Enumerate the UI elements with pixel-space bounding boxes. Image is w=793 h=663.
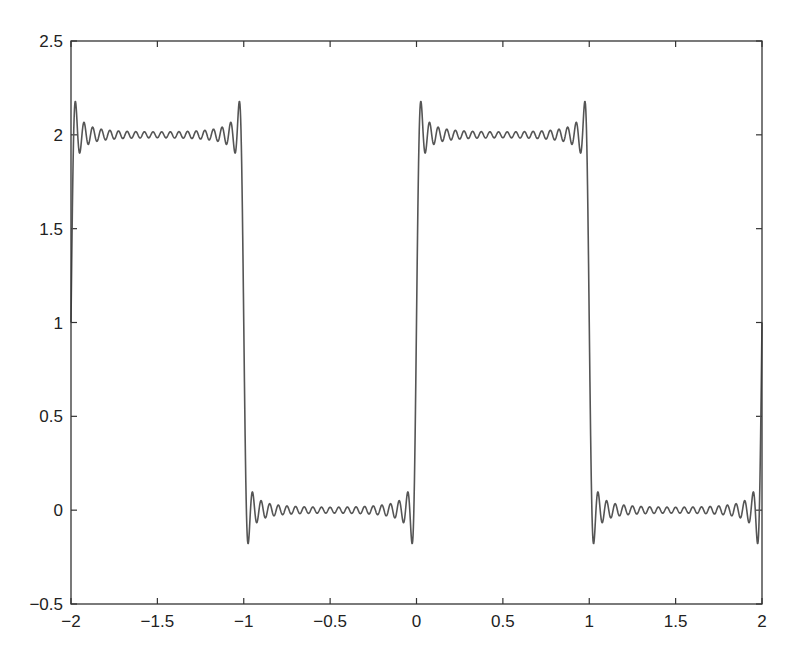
x-tick-label: 0.5 [491, 612, 515, 631]
y-tick-label: 1 [54, 314, 63, 333]
y-tick-label: 0.5 [39, 407, 63, 426]
x-tick-label: 1 [585, 612, 594, 631]
x-tick-label: 1.5 [664, 612, 688, 631]
x-tick-label: 0 [412, 612, 421, 631]
x-tick-label: 2 [757, 612, 766, 631]
y-tick-label: −0.5 [29, 595, 63, 614]
y-axis-tick-labels: −0.500.511.522.5 [29, 32, 63, 614]
y-tick-label: 0 [54, 501, 63, 520]
x-tick-label: −0.5 [313, 612, 347, 631]
x-tick-label: −1 [234, 612, 253, 631]
y-tick-label: 2.5 [39, 32, 63, 51]
x-tick-label: −2 [61, 612, 80, 631]
x-axis-tick-labels: −2−1.5−1−0.500.511.52 [61, 612, 766, 631]
y-tick-label: 2 [54, 126, 63, 145]
x-tick-label: −1.5 [141, 612, 175, 631]
square-wave-chart: −2−1.5−1−0.500.511.52 −0.500.511.522.5 [0, 0, 793, 663]
y-tick-label: 1.5 [39, 220, 63, 239]
